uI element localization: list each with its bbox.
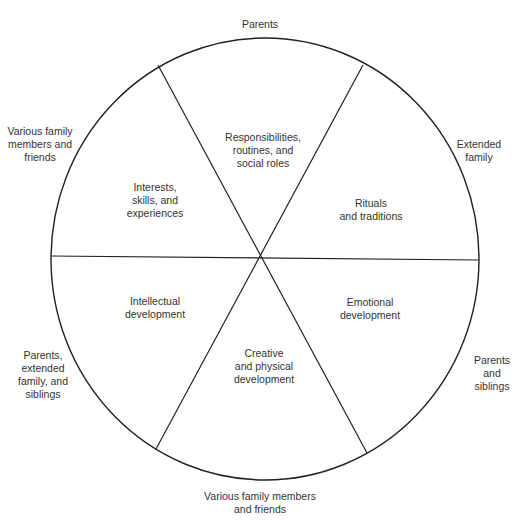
outer-label-various-family-bottom: Various family members and friends [204,490,316,516]
wheel-graphic [0,0,531,524]
segment-label-rituals: Rituals and traditions [339,197,402,223]
segment-label-intellectual: Intellectual development [125,295,185,321]
segment-label-creative: Creative and physical development [234,347,294,386]
outer-label-parents-and-siblings: Parents and siblings [473,354,512,393]
outer-label-parents-extended-siblings: Parents, extended family, and siblings [18,349,68,401]
segment-label-emotional: Emotional development [340,296,400,322]
divider-horizontal [51,256,479,260]
family-roles-wheel-diagram: Responsibilities, routines, and social r… [0,0,531,524]
segment-label-interests: Interests, skills, and experiences [127,181,184,220]
segment-label-responsibilities: Responsibilities, routines, and social r… [225,131,301,170]
outer-label-extended-family: Extended family [457,138,501,164]
outer-label-various-family-left: Various family members and friends [7,125,72,164]
outer-label-parents: Parents [242,18,278,31]
